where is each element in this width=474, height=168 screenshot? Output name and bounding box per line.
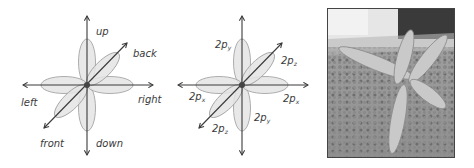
label-2px-right: 2px (283, 93, 300, 105)
label-2py-top: 2py (215, 39, 232, 52)
nucleus (84, 82, 90, 88)
label-2py-bottom: 2py (254, 112, 271, 125)
label-down: down (96, 138, 123, 149)
label-left: left (21, 97, 38, 108)
label-front: front (40, 138, 65, 149)
label-2pz-lower: 2pz (212, 123, 229, 135)
label-2pz-upper: 2pz (281, 55, 298, 67)
label-right: right (138, 94, 163, 105)
orbital-nucleus (239, 82, 245, 88)
label-2px-left: 2px (189, 91, 206, 103)
direction-diagram: up back left right front down (21, 16, 163, 155)
label-back: back (133, 48, 158, 59)
balloon-model-photo (327, 8, 455, 158)
orbital-diagram: 2py 2pz 2px 2px 2pz 2py (178, 16, 308, 155)
label-up: up (96, 26, 109, 37)
balloon-model-illustration (328, 9, 455, 158)
